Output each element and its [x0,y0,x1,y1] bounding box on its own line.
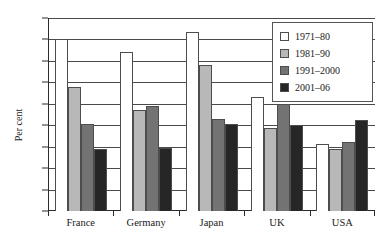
legend-label: 1981–90 [295,49,330,59]
bar [342,142,355,211]
legend-swatch-icon [280,83,289,92]
bar-group-japan [179,18,244,211]
bar [120,52,133,211]
x-tick-cell [113,211,178,216]
bar [94,149,107,211]
bar [68,87,81,211]
x-tick-label-germany: Germany [113,218,178,229]
legend-swatch-icon [280,32,289,41]
legend: 1971–801981–901991–20002001–06 [272,22,373,102]
bar [199,65,212,211]
x-tick-cell [310,211,375,216]
x-axis-ticks [48,211,375,216]
x-tick-mark [48,211,49,216]
legend-item[interactable]: 1971–80 [280,28,366,45]
x-tick-label-usa: USA [310,218,375,229]
bar [290,125,303,211]
bar [225,124,238,211]
legend-label: 2001–06 [295,83,330,93]
x-tick-mark [374,211,375,216]
legend-label: 1971–80 [295,32,330,42]
x-tick-label-uk: UK [244,218,309,229]
bar-group-germany [113,18,178,211]
bar [81,124,94,211]
bar [329,149,342,211]
bar [159,148,172,211]
legend-label: 1991–2000 [295,66,340,76]
legend-swatch-icon [280,66,289,75]
x-tick-cell [244,211,309,216]
x-tick-label-france: France [48,218,113,229]
bar [277,104,290,211]
x-tick-mark [113,211,114,216]
bar-chart: Per cent 4.543.532.521.510.50 FranceGerm… [0,0,381,250]
bar [316,144,329,211]
x-tick-mark [244,211,245,216]
legend-swatch-icon [280,49,289,58]
bar [264,128,277,211]
x-tick-mark [310,211,311,216]
legend-item[interactable]: 1991–2000 [280,62,366,79]
bar [146,106,159,212]
bar [133,110,146,211]
bar [212,119,225,211]
bar-group-france [48,18,113,211]
legend-item[interactable]: 2001–06 [280,79,366,96]
x-tick-label-japan: Japan [179,218,244,229]
bar [55,39,68,211]
x-axis-labels: FranceGermanyJapanUKUSA [48,218,375,229]
x-tick-cell [179,211,244,216]
bar [355,120,368,211]
bar [186,32,199,211]
legend-item[interactable]: 1981–90 [280,45,366,62]
y-axis-title: Per cent [13,109,24,142]
bar [251,97,264,212]
x-tick-mark [179,211,180,216]
x-tick-cell [48,211,113,216]
